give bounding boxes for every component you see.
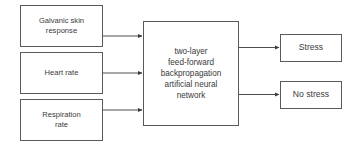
label-line: Heart rate (45, 68, 79, 78)
output-box-no-stress: No stress (280, 81, 342, 109)
label-line: artificial neural (161, 79, 222, 90)
output-arrows (238, 48, 279, 95)
input-arrows (102, 36, 142, 110)
label-line: network (161, 90, 222, 101)
label-line: rate (42, 120, 80, 130)
label-line: response (39, 26, 84, 36)
output-box-stress: Stress (280, 34, 342, 62)
input-box-respiration-rate: Respiration rate (20, 99, 103, 141)
label-line: two-layer (161, 46, 222, 57)
label-line: Galvanic skin (39, 16, 84, 26)
input-box-galvanic-skin-response: Galvanic skin response (20, 5, 103, 47)
input-label: Respiration rate (42, 110, 80, 129)
output-label: No stress (293, 90, 329, 100)
output-label: Stress (299, 43, 323, 53)
label-line: Respiration (42, 110, 80, 120)
label-line: backpropagation (161, 68, 222, 79)
neural-network-box: two-layer feed-forward backpropagation a… (143, 21, 239, 126)
input-box-heart-rate: Heart rate (20, 52, 103, 94)
input-label: Heart rate (45, 68, 79, 78)
input-label: Galvanic skin response (39, 16, 84, 35)
label-line: feed-forward (161, 57, 222, 68)
network-label: two-layer feed-forward backpropagation a… (161, 46, 222, 101)
